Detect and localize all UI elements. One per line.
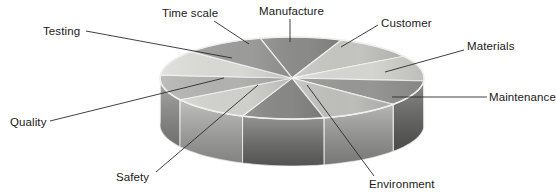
leader-testing	[86, 31, 232, 58]
label-quality: Quality	[10, 116, 47, 129]
pie-side-shading-segment-6	[243, 116, 324, 166]
label-materials: Materials	[467, 40, 515, 53]
label-manufacture: Manufacture	[259, 5, 324, 18]
label-maintenance: Maintenance	[489, 91, 556, 104]
label-safety: Safety	[116, 171, 149, 184]
label-time-scale: Time scale	[162, 7, 218, 20]
label-customer: Customer	[381, 17, 432, 30]
label-environment: Environment	[369, 178, 435, 191]
pie-top-face	[160, 37, 424, 119]
label-testing: Testing	[43, 25, 80, 38]
leader-time-scale	[214, 21, 249, 44]
